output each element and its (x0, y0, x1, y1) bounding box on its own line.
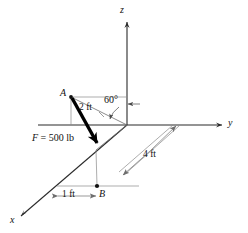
x-axis-label: x (10, 215, 14, 225)
point-a-marker (69, 95, 73, 99)
force-label: F = 500 lb (32, 133, 74, 143)
dim-4ft-arrow-upper (150, 126, 176, 151)
y-axis-label: y (228, 118, 232, 128)
construction-line-to-b (96, 150, 97, 186)
z-axis-label: z (120, 5, 124, 15)
dim-4ft-label: 4 ft (143, 150, 156, 160)
construction-line-origin-to-b-projection (96, 125, 127, 150)
diagram-svg (0, 0, 248, 233)
dim-2ft-label: 2 ft (79, 103, 92, 113)
point-a-label: A (60, 88, 66, 98)
force-value: = 500 lb (38, 132, 74, 143)
point-b-label: B (99, 189, 105, 199)
angle-60-label: 60° (104, 95, 118, 105)
dim-1ft-label: 1 ft (62, 190, 75, 200)
figure-canvas: z y x A B 2 ft 1 ft 4 ft 60° F = 500 lb (0, 0, 248, 233)
